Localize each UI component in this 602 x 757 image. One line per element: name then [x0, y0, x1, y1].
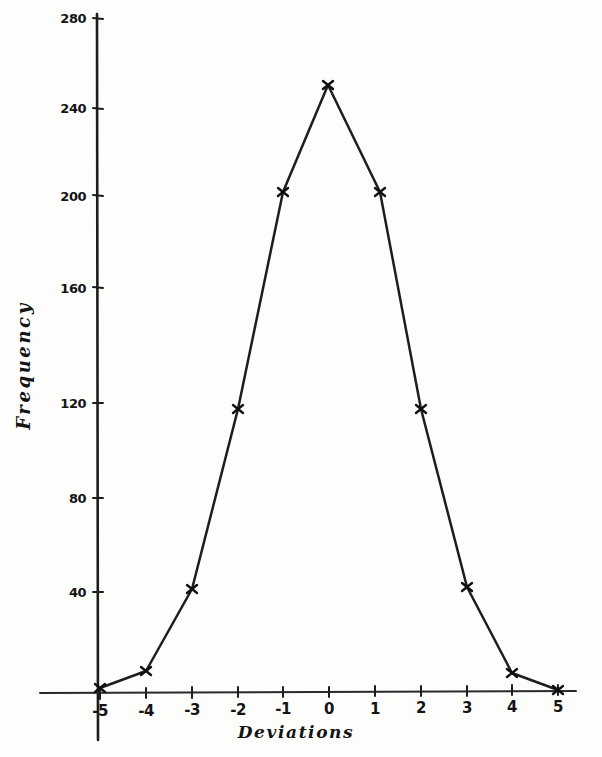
- x-tick-label-4: 4: [492, 698, 532, 716]
- plot-area: 280 240 200 160 120 80 40 -5 -4 -3 -2 -1…: [0, 0, 602, 757]
- y-tick-label-200: 200: [40, 189, 86, 204]
- x-tick-label--2: -2: [218, 701, 258, 719]
- x-tick-label--3: -3: [172, 701, 212, 719]
- y-axis: [97, 14, 98, 740]
- x-tick-label--1: -1: [263, 700, 303, 718]
- data-series-frequency: [100, 85, 558, 690]
- y-tick-label-160: 160: [40, 281, 86, 296]
- x-tick-label-0: 0: [309, 700, 349, 718]
- y-tick-label-240: 240: [40, 101, 86, 116]
- x-tick-label-1: 1: [355, 700, 395, 718]
- x-tick-label-2: 2: [401, 699, 441, 717]
- y-tick-label-280: 280: [40, 11, 86, 26]
- chart-svg: [0, 0, 602, 757]
- data-point-markers: [95, 81, 563, 694]
- x-axis-title: Deviations: [196, 722, 396, 742]
- x-tick-label--5: -5: [80, 702, 120, 720]
- x-axis: [40, 691, 576, 693]
- chart-page: 280 240 200 160 120 80 40 -5 -4 -3 -2 -1…: [0, 0, 602, 757]
- x-tick-label-5: 5: [538, 698, 578, 716]
- y-tick-label-40: 40: [40, 585, 86, 600]
- y-tick-label-120: 120: [40, 396, 86, 411]
- x-tick-label--4: -4: [126, 702, 166, 720]
- y-tick-label-80: 80: [40, 491, 86, 506]
- x-tick-label-3: 3: [447, 699, 487, 717]
- y-axis-title: Frequency: [13, 281, 34, 451]
